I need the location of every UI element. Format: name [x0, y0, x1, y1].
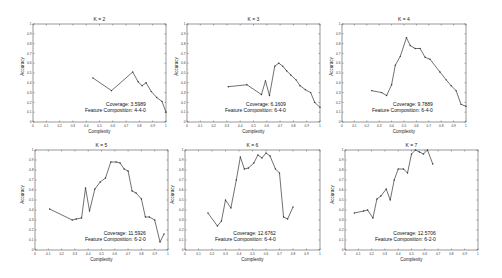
svg-text:1: 1 [182, 148, 184, 152]
svg-text:0.5: 0.5 [336, 71, 341, 75]
chart-panel-k4: K = 4 00.10.20.30.40.50.60.70.80.9100.10… [342, 24, 466, 122]
svg-text:0.4: 0.4 [389, 124, 394, 128]
chart-annotation: Coverage: 11.5926 Feature Composition: 6… [85, 230, 146, 242]
svg-text:0.2: 0.2 [57, 124, 62, 128]
svg-text:0.4: 0.4 [181, 81, 186, 85]
svg-text:0.3: 0.3 [73, 252, 78, 256]
svg-text:0.1: 0.1 [181, 110, 186, 114]
chart-panel-k2: K = 2 00.10.20.30.40.50.60.70.80.9100.10… [33, 24, 166, 122]
svg-text:0.2: 0.2 [211, 124, 216, 128]
svg-text:0.8: 0.8 [291, 124, 296, 128]
svg-text:0.4: 0.4 [84, 124, 89, 128]
svg-text:0.7: 0.7 [436, 252, 441, 256]
svg-text:0.9: 0.9 [304, 252, 309, 256]
svg-text:0.9: 0.9 [27, 32, 32, 36]
svg-text:0.5: 0.5 [339, 198, 344, 202]
svg-text:0.8: 0.8 [336, 42, 341, 46]
svg-text:1: 1 [339, 22, 341, 26]
svg-text:0.4: 0.4 [179, 208, 184, 212]
svg-text:0.1: 0.1 [198, 124, 203, 128]
chart-annotation: Coverage: 6.1609 Feature Composition: 6-… [225, 101, 286, 113]
svg-text:0: 0 [34, 252, 36, 256]
composition-label: Feature Composition: 4-4-0 [85, 107, 146, 113]
svg-text:0: 0 [186, 124, 188, 128]
svg-text:0: 0 [32, 248, 34, 252]
svg-text:0.7: 0.7 [278, 124, 283, 128]
svg-text:0.4: 0.4 [396, 252, 401, 256]
svg-text:0.4: 0.4 [238, 124, 243, 128]
svg-text:0.4: 0.4 [237, 252, 242, 256]
svg-text:0.3: 0.3 [339, 218, 344, 222]
svg-text:1: 1 [465, 124, 467, 128]
svg-text:0.2: 0.2 [29, 228, 34, 232]
svg-text:0.1: 0.1 [29, 238, 34, 242]
svg-text:1: 1 [32, 148, 34, 152]
svg-text:0.5: 0.5 [27, 71, 32, 75]
svg-text:0.1: 0.1 [196, 252, 201, 256]
svg-text:0.1: 0.1 [356, 252, 361, 256]
svg-text:0.6: 0.6 [423, 252, 428, 256]
svg-text:0.2: 0.2 [210, 252, 215, 256]
y-axis-label: Accuracy [174, 52, 179, 82]
svg-text:0.6: 0.6 [264, 252, 269, 256]
svg-text:0.3: 0.3 [179, 218, 184, 222]
svg-text:0.6: 0.6 [265, 124, 270, 128]
svg-text:0: 0 [184, 120, 186, 124]
x-axis-label: Complexity [345, 257, 478, 262]
svg-text:0.1: 0.1 [352, 124, 357, 128]
chart-annotation: Coverage: 12.6762 Feature Composition: 6… [215, 230, 276, 242]
svg-text:0.1: 0.1 [44, 124, 49, 128]
svg-text:0.7: 0.7 [339, 178, 344, 182]
svg-text:0.8: 0.8 [181, 42, 186, 46]
svg-text:0.3: 0.3 [29, 218, 34, 222]
svg-text:1: 1 [165, 124, 167, 128]
composition-label: Feature Composition: 6-4-0 [372, 107, 433, 113]
svg-text:0.1: 0.1 [27, 110, 32, 114]
svg-text:0.2: 0.2 [179, 228, 184, 232]
svg-text:0.2: 0.2 [59, 252, 64, 256]
svg-text:0.2: 0.2 [27, 101, 32, 105]
svg-text:0.3: 0.3 [225, 124, 230, 128]
x-axis-label: Complexity [342, 129, 466, 134]
chart-title: K = 3 [187, 16, 320, 22]
svg-text:0.2: 0.2 [336, 101, 341, 105]
svg-text:0.6: 0.6 [181, 61, 186, 65]
chart-annotation: Coverage: 9.7889 Feature Composition: 6-… [372, 101, 433, 113]
chart-annotation: Coverage: 12.5706 Feature Composition: 6… [375, 230, 436, 242]
y-axis-label: Accuracy [170, 180, 175, 210]
chart-panel-k3: K = 3 00.10.20.30.40.50.60.70.80.9100.10… [187, 24, 320, 122]
svg-text:0.9: 0.9 [304, 124, 309, 128]
chart-title: K = 6 [185, 142, 320, 148]
svg-text:0.5: 0.5 [251, 124, 256, 128]
svg-text:1: 1 [477, 252, 479, 256]
svg-text:0.7: 0.7 [277, 252, 282, 256]
svg-text:1: 1 [319, 124, 321, 128]
svg-text:0.2: 0.2 [365, 124, 370, 128]
svg-text:0.6: 0.6 [27, 61, 32, 65]
svg-text:0.5: 0.5 [402, 124, 407, 128]
y-axis-label: Accuracy [330, 180, 335, 210]
x-axis-label: Complexity [35, 257, 168, 262]
y-axis-label: Accuracy [20, 52, 25, 82]
svg-text:0.6: 0.6 [336, 61, 341, 65]
composition-label: Feature Composition: 6-4-0 [225, 107, 286, 113]
svg-text:0.3: 0.3 [336, 91, 341, 95]
svg-text:0.3: 0.3 [27, 91, 32, 95]
svg-text:0: 0 [30, 120, 32, 124]
chart-title: K = 5 [35, 142, 168, 148]
svg-text:0.9: 0.9 [181, 32, 186, 36]
svg-text:0.6: 0.6 [179, 188, 184, 192]
chart-panel-k7: K = 7 00.10.20.30.40.50.60.70.80.9100.10… [345, 150, 478, 250]
x-axis-label: Complexity [33, 129, 166, 134]
svg-text:0.4: 0.4 [336, 81, 341, 85]
svg-text:0.3: 0.3 [223, 252, 228, 256]
svg-text:0.6: 0.6 [414, 124, 419, 128]
svg-text:0.2: 0.2 [339, 228, 344, 232]
svg-text:0.3: 0.3 [71, 124, 76, 128]
svg-text:0.7: 0.7 [181, 52, 186, 56]
svg-text:0: 0 [184, 252, 186, 256]
chart-annotation: Coverage: 3.5989 Feature Composition: 4-… [85, 101, 146, 113]
svg-text:0.8: 0.8 [439, 124, 444, 128]
svg-text:0.5: 0.5 [181, 71, 186, 75]
svg-text:0.1: 0.1 [339, 238, 344, 242]
